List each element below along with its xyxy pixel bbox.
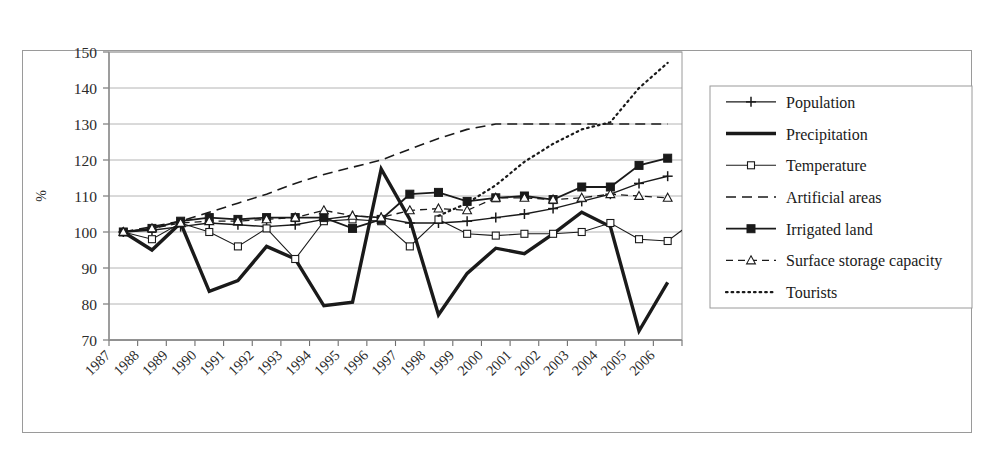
series-temperature-point-1988-marker [148,236,155,243]
legend-label-precipitation: Precipitation [786,126,868,144]
series-irrigated-land-point-2005-marker [635,161,643,169]
legend-label-surface-storage-capacity: Surface storage capacity [786,252,942,270]
series-irrigated-land-point-2006-marker [664,154,672,162]
series-irrigated-land-point-2003-marker [578,183,586,191]
x-tick-label-1999: 1999 [425,347,457,379]
y-tick-label-150: 150 [74,44,98,61]
x-tick-label-1987: 1987 [82,347,114,379]
legend-label-temperature: Temperature [786,157,867,175]
x-tick-label-1991: 1991 [196,347,228,379]
series-temperature-point-1999-marker [464,230,471,237]
series-temperature-point-undefined-marker [693,216,700,223]
x-tick-label-1994: 1994 [282,346,314,378]
x-tick-label-1992: 1992 [225,347,257,379]
legend-label-irrigated-land: Irrigated land [786,221,873,239]
x-tick-label-1990: 1990 [168,347,200,379]
series-temperature-point-2003-marker [578,229,585,236]
series-irrigated-land-point-1994-marker [320,214,328,222]
legend: PopulationPrecipitationTemperatureArtifi… [710,86,972,308]
series-temperature-point-2000-marker [492,232,499,239]
series-temperature-point-2006-marker [664,238,671,245]
x-tick-label-1998: 1998 [397,347,429,379]
x-axis: 1987198819891990199119921993199419951996… [82,340,682,379]
series-temperature-point-1997-marker [406,243,413,250]
y-tick-label-110: 110 [74,188,97,205]
y-tick-label-100: 100 [74,224,98,241]
legend-label-tourists: Tourists [786,284,837,301]
series-temperature-point-2005-marker [636,236,643,243]
y-tick-label-140: 140 [74,80,98,97]
legend-label-artificial-areas: Artificial areas [786,189,882,206]
y-tick-label-130: 130 [74,116,98,133]
series-irrigated-land-point-1998-marker [434,188,442,196]
x-tick-label-2006: 2006 [626,347,658,379]
legend-label-population: Population [786,94,855,112]
x-tick-label-2000: 2000 [454,347,486,379]
series-temperature-point-1993-marker [292,256,299,263]
x-tick-label-1993: 1993 [254,347,286,379]
y-tick-label-120: 120 [74,152,98,169]
legend-swatch-temperature-marker [748,162,755,169]
series-temperature-point-1992-marker [263,225,270,232]
series-temperature-point-1998-marker [435,216,442,223]
series-irrigated-land-point-1995-marker [349,224,357,232]
series-temperature-point-1990-marker [206,229,213,236]
series-temperature-point-1991-marker [234,243,241,250]
legend-swatch-irrigated-land-marker [747,225,755,233]
y-tick-label-80: 80 [82,296,98,313]
x-tick-label-2002: 2002 [511,347,543,379]
line-chart: 708090100110120130140150%198719881989199… [0,0,997,461]
chart-figure: 708090100110120130140150%198719881989199… [0,0,997,461]
x-tick-label-2003: 2003 [540,347,572,379]
x-tick-label-1995: 1995 [311,347,343,379]
x-tick-label-1988: 1988 [110,347,142,379]
series-temperature-point-2004-marker [607,220,614,227]
x-tick-label-1997: 1997 [368,347,400,379]
series-temperature-point-2001-marker [521,230,528,237]
y-tick-label-70: 70 [82,332,98,349]
x-tick-label-2005: 2005 [597,347,629,379]
y-tick-label-90: 90 [82,260,98,277]
x-tick-label-2001: 2001 [483,347,515,379]
series-irrigated-land-point-1997-marker [406,190,414,198]
x-tick-label-1996: 1996 [339,347,371,379]
x-tick-label-2004: 2004 [569,346,601,378]
x-tick-label-1989: 1989 [139,347,171,379]
y-axis-title: % [34,190,49,202]
series-temperature-point-2002-marker [550,230,557,237]
y-axis: 708090100110120130140150 [74,44,109,349]
